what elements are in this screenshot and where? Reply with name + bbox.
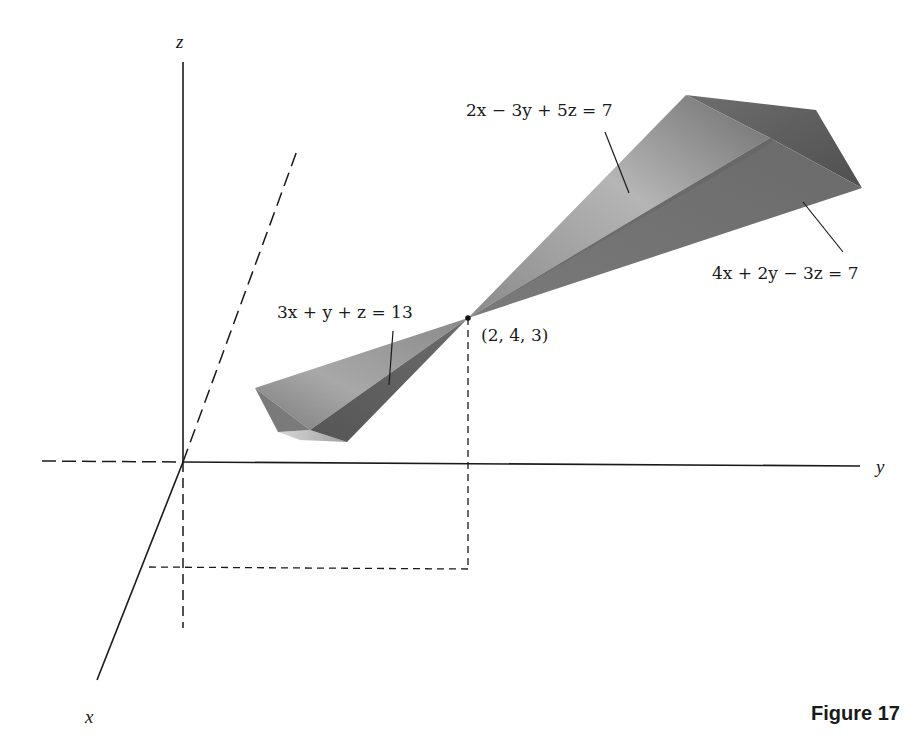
figure-caption: Figure 17 bbox=[811, 702, 900, 725]
y-axis-negative bbox=[42, 461, 183, 462]
leader-line-plane-2 bbox=[803, 202, 843, 252]
point-label: (2, 4, 3) bbox=[481, 325, 548, 345]
x-axis bbox=[97, 462, 183, 680]
lower-plane-wedge bbox=[255, 318, 468, 442]
plane-2-equation: 4x + 2y − 3z = 7 bbox=[712, 263, 859, 283]
plane-3-equation: 3x + y + z = 13 bbox=[277, 302, 413, 322]
plane-1-equation: 2x − 3y + 5z = 7 bbox=[466, 100, 613, 120]
y-axis-label: y bbox=[874, 456, 885, 477]
z-axis-label: z bbox=[175, 31, 184, 52]
3d-planes-figure: z y x 2x − 3y + 5z = 7 4x + 2y − 3z = 7 … bbox=[0, 0, 919, 750]
intersection-point bbox=[465, 315, 471, 321]
upper-plane-wedge bbox=[468, 95, 862, 318]
projection-horizontal bbox=[146, 567, 468, 569]
y-axis bbox=[183, 462, 860, 466]
x-axis-label: x bbox=[84, 706, 94, 727]
